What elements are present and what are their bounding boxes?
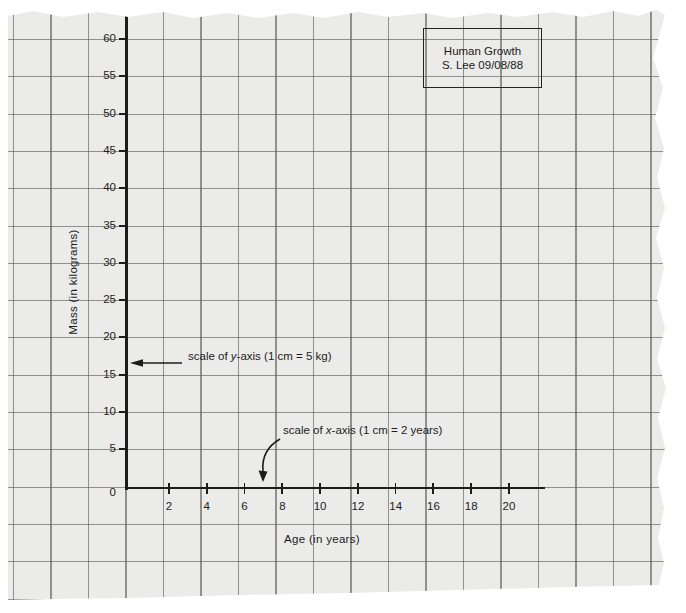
y-tick: [119, 374, 128, 376]
y-tick: [119, 262, 128, 264]
y-tick-label: 20: [82, 329, 116, 343]
y-tick-label: 55: [82, 68, 116, 82]
y-tick: [119, 411, 128, 413]
y-scale-annotation-suffix: -axis (1 cm = 5 kg): [237, 350, 332, 362]
y-tick-label: 40: [82, 180, 116, 194]
y-tick-label: 35: [82, 218, 116, 232]
x-scale-annotation-prefix: scale of: [283, 424, 326, 436]
curved-down-arrow-icon: [253, 438, 287, 486]
x-tick: [470, 483, 472, 494]
x-tick: [508, 483, 510, 494]
left-arrow-icon: [128, 357, 184, 369]
y-tick-label: 60: [82, 31, 116, 45]
x-tick-label: 6: [230, 499, 260, 513]
y-tick-label: 5: [82, 441, 116, 455]
x-tick: [357, 483, 359, 494]
y-tick: [119, 75, 128, 77]
x-tick: [319, 483, 321, 494]
x-axis-title: Age (in years): [284, 533, 360, 545]
x-scale-annotation: scale of x-axis (1 cm = 2 years): [283, 424, 442, 437]
x-tick: [432, 483, 434, 494]
x-axis-line: [125, 487, 545, 490]
y-tick: [119, 225, 128, 227]
y-axis-title: Mass (in kilograms): [67, 229, 79, 334]
x-tick-label: 14: [381, 499, 411, 513]
y-tick-label: 15: [82, 367, 116, 381]
y-scale-annotation-prefix: scale of: [188, 350, 231, 362]
x-tick: [206, 483, 208, 494]
y-axis-line: [125, 13, 128, 490]
y-tick-label: 30: [82, 255, 116, 269]
y-tick: [119, 150, 128, 152]
y-tick: [119, 448, 128, 450]
y-tick: [119, 299, 128, 301]
x-tick-label: 18: [456, 499, 486, 513]
y-scale-annotation: scale of y-axis (1 cm = 5 kg): [188, 350, 331, 363]
x-tick: [244, 483, 246, 494]
x-tick-label: 8: [267, 499, 297, 513]
x-tick-label: 12: [343, 499, 373, 513]
x-tick: [168, 483, 170, 494]
y-tick: [119, 187, 128, 189]
y-tick: [119, 38, 128, 40]
x-tick-label: 2: [154, 499, 184, 513]
y-tick-label: 45: [82, 143, 116, 157]
chart-author-date: S. Lee 09/08/88: [442, 58, 523, 72]
y-tick: [119, 336, 128, 338]
chart-title-box: Human Growth S. Lee 09/08/88: [423, 28, 542, 88]
y-tick-label: 25: [82, 292, 116, 306]
x-tick-label: 20: [494, 499, 524, 513]
y-tick-label: 10: [82, 404, 116, 418]
x-tick-label: 16: [418, 499, 448, 513]
chart-title: Human Growth: [444, 44, 521, 58]
x-tick: [395, 483, 397, 494]
graph-paper: 605550454035302520151052468101214161820 …: [8, 8, 668, 600]
x-scale-annotation-suffix: -axis (1 cm = 2 years): [332, 424, 443, 436]
scanned-graph-figure: 605550454035302520151052468101214161820 …: [0, 0, 686, 613]
y-tick: [119, 113, 128, 115]
x-tick-label: 4: [192, 499, 222, 513]
origin-tick-label: 0: [82, 485, 116, 499]
y-tick-label: 50: [82, 106, 116, 120]
x-tick-label: 10: [305, 499, 335, 513]
